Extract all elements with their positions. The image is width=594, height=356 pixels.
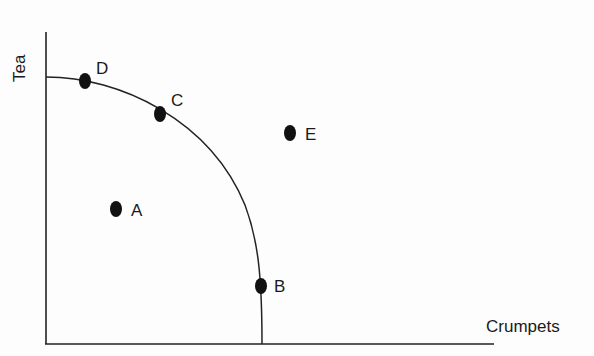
point-c-label: C: [171, 92, 183, 109]
point-d-label: D: [96, 60, 108, 77]
point-a-label: A: [131, 202, 142, 219]
y-axis-label: Tea: [11, 55, 28, 82]
point-b-marker: [255, 278, 267, 294]
ppf-diagram: [0, 0, 594, 356]
point-e-marker: [284, 125, 296, 141]
point-a-marker: [110, 201, 122, 217]
frontier-curve: [46, 77, 262, 344]
point-e-label: E: [305, 126, 316, 143]
point-b-label: B: [274, 278, 285, 295]
point-c-marker: [154, 106, 166, 122]
point-d-marker: [79, 73, 91, 89]
x-axis-label: Crumpets: [486, 318, 560, 335]
